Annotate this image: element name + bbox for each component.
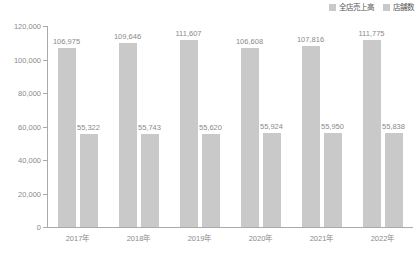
x-axis-label: 2022年: [371, 232, 395, 243]
x-axis-label: 2021年: [310, 232, 334, 243]
bar[interactable]: 111,607: [180, 40, 198, 227]
y-axis-label: 100,000: [14, 55, 41, 64]
bar-value-label: 55,322: [77, 123, 100, 132]
bar-value-label: 109,646: [114, 32, 141, 41]
legend-item-sales: 全店売上高: [329, 4, 374, 12]
x-axis-label: 2017年: [66, 232, 90, 243]
y-axis-label: 120,000: [14, 22, 41, 31]
bar[interactable]: 107,816: [302, 46, 320, 227]
bar-value-label: 55,924: [260, 122, 283, 131]
bar-value-label: 55,838: [382, 122, 405, 131]
legend-swatch-icon-stores: [383, 4, 390, 11]
bar[interactable]: 55,950: [324, 133, 342, 227]
bar-value-label: 106,608: [236, 37, 263, 46]
bar-value-label: 55,950: [321, 122, 344, 131]
bar-group: 109,64655,7432018年: [108, 26, 169, 227]
bar[interactable]: 55,620: [202, 134, 220, 227]
y-axis-label: 60,000: [18, 122, 41, 131]
bar[interactable]: 111,775: [363, 40, 381, 227]
legend-item-stores: 店舗数: [383, 4, 414, 12]
bar[interactable]: 106,975: [58, 48, 76, 227]
bar-value-label: 106,975: [53, 37, 80, 46]
bar-group: 106,97555,3222017年: [47, 26, 108, 227]
y-axis-label: 20,000: [18, 189, 41, 198]
x-axis-line: [47, 227, 413, 228]
legend-label-stores: 店舗数: [393, 4, 414, 12]
bar[interactable]: 55,743: [141, 134, 159, 227]
bar-group: 111,77555,8382022年: [352, 26, 413, 227]
bar[interactable]: 106,608: [241, 48, 259, 227]
bar[interactable]: 55,924: [263, 133, 281, 227]
bar-group: 107,81655,9502021年: [291, 26, 352, 227]
y-axis-label: 0: [37, 223, 41, 232]
bar[interactable]: 55,838: [385, 133, 403, 227]
chart-legend: 全店売上高 店舗数: [329, 4, 414, 12]
plot-area: 020,00040,00060,00080,000100,000120,000 …: [47, 26, 413, 228]
bar-value-label: 111,607: [176, 29, 202, 38]
bar[interactable]: 55,322: [80, 134, 98, 227]
bar-value-label: 111,775: [359, 29, 385, 38]
bar-group: 111,60755,6202019年: [169, 26, 230, 227]
x-axis-label: 2019年: [188, 232, 212, 243]
y-axis-tick: [43, 227, 48, 228]
bar-value-label: 55,620: [199, 123, 222, 132]
bar-chart: 全店売上高 店舗数 020,00040,00060,00080,000100,0…: [0, 0, 420, 259]
bar-group: 106,60855,9242020年: [230, 26, 291, 227]
y-axis-label: 40,000: [18, 156, 41, 165]
y-axis-label: 80,000: [18, 89, 41, 98]
legend-swatch-icon-sales: [329, 4, 336, 11]
x-axis-label: 2018年: [127, 232, 151, 243]
legend-label-sales: 全店売上高: [339, 4, 374, 12]
bar[interactable]: 109,646: [119, 43, 137, 227]
bar-value-label: 55,743: [138, 123, 161, 132]
bar-value-label: 107,816: [297, 35, 324, 44]
x-axis-label: 2020年: [249, 232, 273, 243]
